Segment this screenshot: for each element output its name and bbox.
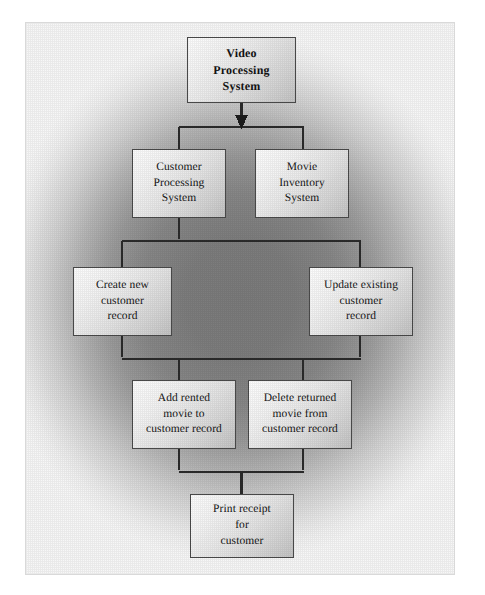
node-label: Create new customer record (78, 278, 167, 326)
node-label: Delete returned movie from customer reco… (253, 391, 347, 439)
node-print-receipt-for-customer[interactable]: Print receipt for customer (190, 494, 294, 558)
node-movie-inventory-system[interactable]: Movie Inventory System (255, 149, 349, 218)
node-video-processing-system[interactable]: Video Processing System (187, 37, 296, 103)
node-label: Update existing customer record (314, 278, 408, 326)
node-label: Print receipt for customer (195, 502, 289, 550)
node-customer-processing-system[interactable]: Customer Processing System (132, 149, 226, 218)
node-create-new-customer-record[interactable]: Create new customer record (73, 267, 172, 336)
node-add-rented-movie-to-customer-record[interactable]: Add rented movie to customer record (132, 380, 236, 449)
node-label: Video Processing System (192, 45, 291, 95)
node-update-existing-customer-record[interactable]: Update existing customer record (309, 267, 413, 336)
node-label: Add rented movie to customer record (137, 391, 231, 439)
diagram-frame: Video Processing System Customer Process… (25, 22, 455, 575)
node-label: Customer Processing System (137, 160, 221, 208)
node-delete-returned-movie-from-customer-record[interactable]: Delete returned movie from customer reco… (248, 380, 352, 449)
screenshot-canvas: Video Processing System Customer Process… (0, 0, 485, 595)
node-label: Movie Inventory System (260, 160, 344, 208)
